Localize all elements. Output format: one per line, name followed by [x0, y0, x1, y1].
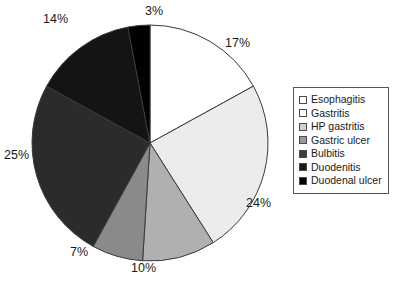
legend-item[interactable]: Esophagitis: [299, 93, 383, 107]
pie-slice-value-label: 7%: [70, 245, 88, 259]
pie-slice-value-label: 17%: [225, 36, 250, 50]
legend-swatch-icon: [299, 136, 307, 144]
legend-item-label: Duodenitis: [311, 162, 361, 173]
legend-swatch-icon: [299, 163, 307, 171]
legend-item-label: Bulbitis: [311, 148, 345, 159]
legend-item[interactable]: Duodenitis: [299, 161, 383, 175]
legend-swatch-icon: [299, 177, 307, 185]
legend-item[interactable]: Duodenal ulcer: [299, 174, 383, 188]
legend-swatch-icon: [299, 96, 307, 104]
legend-item[interactable]: Bulbitis: [299, 147, 383, 161]
legend-item-label: Gastritis: [311, 108, 350, 119]
chart-legend: EsophagitisGastritisHP gastritisGastric …: [293, 87, 389, 194]
pie-slice-value-label: 24%: [246, 196, 271, 210]
legend-item[interactable]: Gastric ulcer: [299, 134, 383, 148]
legend-swatch-icon: [299, 150, 307, 158]
legend-item[interactable]: Gastritis: [299, 107, 383, 121]
pie-slice-value-label: 25%: [4, 148, 29, 162]
legend-item[interactable]: HP gastritis: [299, 120, 383, 134]
legend-swatch-icon: [299, 123, 307, 131]
legend-item-label: HP gastritis: [311, 121, 365, 132]
legend-item-label: Duodenal ulcer: [311, 175, 382, 186]
legend-swatch-icon: [299, 109, 307, 117]
pie-slice-value-label: 14%: [43, 12, 68, 26]
legend-item-label: Esophagitis: [311, 94, 365, 105]
pie-slice-value-label: 10%: [131, 261, 156, 275]
legend-item-label: Gastric ulcer: [311, 135, 370, 146]
pie-chart-figure: 17%24%10%7%25%14%3% EsophagitisGastritis…: [0, 0, 397, 284]
pie-slices-group: [32, 25, 268, 261]
pie-slice-value-label: 3%: [145, 4, 163, 18]
